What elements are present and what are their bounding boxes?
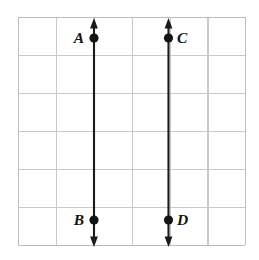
point-b-label: B (73, 211, 84, 228)
grid-horizontal-lines (18, 18, 245, 246)
figure-canvas: A C B D (0, 0, 259, 260)
point-a-label: A (73, 29, 84, 46)
line-ab-arrowhead-top (90, 18, 98, 29)
point-d-dot (164, 215, 173, 224)
line-cd (165, 18, 173, 247)
point-a-dot (89, 33, 98, 42)
line-cd-arrowhead-top (165, 18, 173, 29)
point-c-dot (164, 33, 173, 42)
line-ab (90, 18, 98, 247)
point-c-label: C (177, 29, 188, 46)
point-d-label: D (176, 211, 188, 228)
geometry-figure: A C B D (0, 0, 259, 260)
points-group: A C B D (73, 29, 189, 228)
point-b-dot (89, 215, 98, 224)
